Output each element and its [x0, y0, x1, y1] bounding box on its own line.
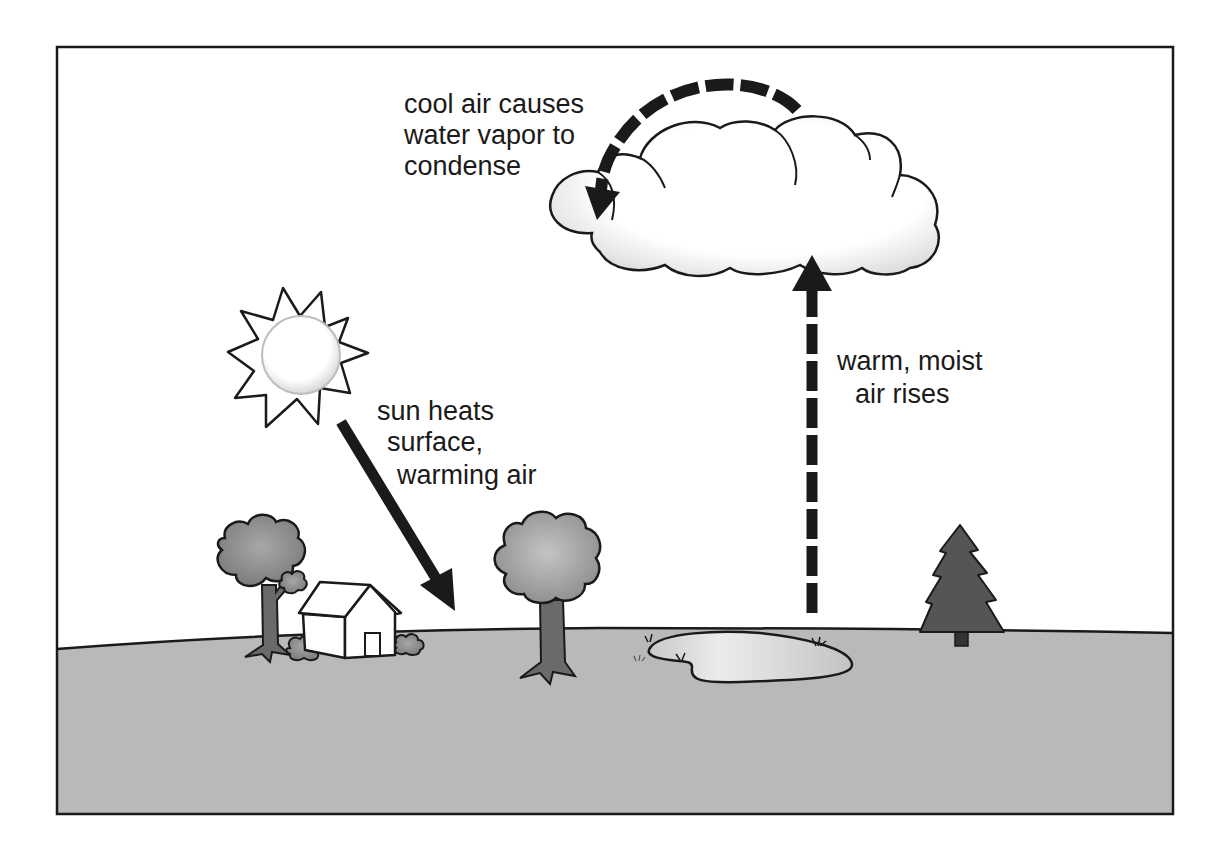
- condense-label-line-3: condense: [404, 151, 521, 181]
- condense-label-line-1: cool air causes: [404, 89, 584, 119]
- sun-heats-label-line-2: surface,: [387, 427, 483, 457]
- house-door: [365, 633, 380, 656]
- air-rises-label-line-2: air rises: [855, 379, 950, 409]
- sun-heats-label-line-3: warming air: [396, 460, 537, 490]
- ground: [57, 628, 1173, 814]
- sun-heats-label-line-1: sun heats: [377, 396, 494, 426]
- condense-label-line-2: water vapor to: [403, 120, 575, 150]
- convection-cloud-diagram: cool air causes water vapor to condense …: [0, 0, 1227, 866]
- air-rises-label-line-1: warm, moist: [836, 346, 983, 376]
